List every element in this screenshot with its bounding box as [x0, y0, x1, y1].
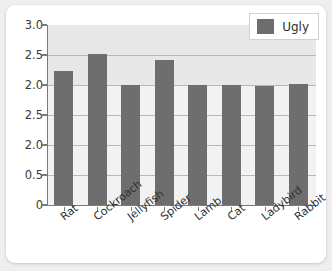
- y-axis-tick-label: 0.5: [9, 168, 43, 182]
- legend-label-ugly: Ugly: [282, 21, 309, 33]
- y-axis-tick-label: 2.5: [9, 108, 43, 122]
- y-axis: 3.02.52.02.52.00.50: [6, 25, 43, 205]
- legend: Ugly: [249, 13, 319, 40]
- bar-group: [47, 25, 315, 205]
- bar: [54, 71, 73, 205]
- x-axis: RatCockroachJellyfishSpiderLambCatLadybi…: [47, 207, 315, 267]
- bar: [255, 86, 274, 205]
- chart-card: 3.02.52.02.52.00.50 RatCockroachJellyfis…: [6, 5, 326, 263]
- y-axis-tick-label: 3.0: [9, 18, 43, 32]
- y-axis-tick-label: 2.0: [9, 138, 43, 152]
- y-axis-tick-label: 2.5: [9, 48, 43, 62]
- bar: [188, 85, 207, 205]
- bar: [222, 85, 241, 205]
- y-axis-tick-label: 0: [9, 198, 43, 212]
- bar: [88, 54, 107, 205]
- y-axis-tick-label: 2.0: [9, 78, 43, 92]
- bar: [155, 60, 174, 205]
- legend-swatch-ugly: [257, 19, 274, 34]
